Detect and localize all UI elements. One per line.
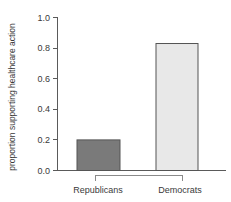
y-axis-ticks: 1.0 0.8 0.6 0.4 0.2 0.0 — [37, 13, 57, 176]
chart-canvas: proportion supporting healthcare action … — [0, 0, 231, 202]
y-tick-label: 0.2 — [37, 135, 50, 145]
y-tick-label: 1.0 — [37, 13, 50, 23]
y-tick-label: 0.8 — [37, 43, 50, 53]
bar-chart: proportion supporting healthcare action … — [0, 0, 231, 202]
bar-republicans[interactable] — [77, 140, 120, 171]
x-axis-label-republicans: Republicans — [73, 185, 123, 195]
y-tick-label: 0.4 — [37, 104, 50, 114]
bar-democrats[interactable] — [156, 44, 198, 171]
y-axis-title: proportion supporting healthcare action — [7, 23, 17, 171]
y-tick-label: 0.0 — [37, 166, 50, 176]
category-bracket — [96, 176, 183, 182]
y-tick-label: 0.6 — [37, 74, 50, 84]
x-axis-label-democrats: Democrats — [158, 185, 202, 195]
bars-group — [77, 44, 198, 171]
